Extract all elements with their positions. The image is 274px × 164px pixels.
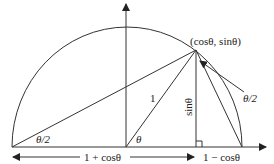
half-angle-right-label: θ/2 — [243, 92, 257, 104]
theta-label: θ — [136, 133, 142, 145]
radius-label: 1 — [150, 92, 156, 104]
left-length-label: 1 + cosθ — [84, 151, 121, 163]
chord-to-right-end — [196, 50, 242, 147]
half-angle-left-label: θ/2 — [36, 133, 50, 145]
right-length-label: 1 − cosθ — [203, 151, 240, 163]
height-label: sinθ — [182, 98, 194, 116]
pointer-arrow-half-angle — [200, 61, 244, 92]
half-angle-diagram: (cosθ, sinθ) θ/2 θ/2 θ 1 sinθ 1 + cosθ 1… — [0, 0, 274, 164]
right-angle-marker — [196, 141, 202, 147]
point-label: (cosθ, sinθ) — [190, 35, 241, 48]
